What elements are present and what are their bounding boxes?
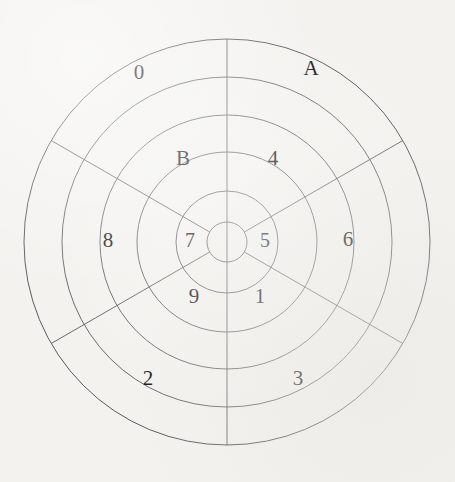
sector-label-0: 0 bbox=[134, 60, 145, 84]
sector-label-9: 9 bbox=[189, 284, 200, 308]
grid-spoke-210 bbox=[51, 252, 210, 344]
polar-diagram-canvas: 0 A B 4 8 6 7 5 9 1 2 3 bbox=[0, 0, 455, 482]
sector-label-3: 3 bbox=[293, 366, 304, 390]
grid-spoke-330 bbox=[244, 252, 402, 344]
polar-sector-diagram: 0 A B 4 8 6 7 5 9 1 2 3 bbox=[0, 0, 455, 482]
sector-label-A: A bbox=[303, 56, 319, 80]
sector-label-1: 1 bbox=[255, 284, 266, 308]
sector-label-B: B bbox=[176, 146, 190, 170]
sector-label-6: 6 bbox=[343, 227, 354, 251]
sector-label-7: 7 bbox=[185, 229, 195, 251]
sector-label-4: 4 bbox=[268, 146, 279, 170]
sector-label-8: 8 bbox=[103, 228, 114, 252]
sector-label-2: 2 bbox=[143, 366, 154, 390]
sector-labels: 0 A B 4 8 6 7 5 9 1 2 3 bbox=[103, 56, 354, 390]
sector-label-5: 5 bbox=[260, 229, 270, 251]
